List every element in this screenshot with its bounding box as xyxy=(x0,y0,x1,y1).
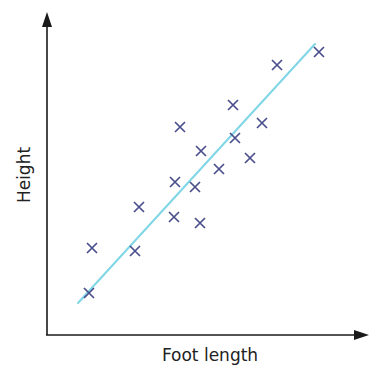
data-point-cross-icon xyxy=(134,202,144,212)
data-point-cross-icon xyxy=(169,212,179,222)
y-axis-label: Height xyxy=(14,147,34,203)
data-point-cross-icon xyxy=(170,177,180,187)
data-point-cross-icon xyxy=(214,164,224,174)
data-point-cross-icon xyxy=(228,100,238,110)
data-point-cross-icon xyxy=(272,60,282,70)
data-point-cross-icon xyxy=(130,246,140,256)
data-point-cross-icon xyxy=(175,122,185,132)
data-point-cross-icon xyxy=(245,153,255,163)
data-point-cross-icon xyxy=(314,47,324,57)
y-axis-arrow-icon xyxy=(42,12,52,27)
trend-line xyxy=(78,44,315,303)
data-point-cross-icon xyxy=(190,182,200,192)
data-point-cross-icon xyxy=(257,118,267,128)
x-axis-arrow-icon xyxy=(354,330,369,340)
data-points xyxy=(84,47,324,298)
x-axis-label: Foot length xyxy=(0,345,379,365)
scatter-chart xyxy=(0,0,379,384)
data-point-cross-icon xyxy=(87,243,97,253)
data-point-cross-icon xyxy=(230,133,240,143)
data-point-cross-icon xyxy=(195,218,205,228)
data-point-cross-icon xyxy=(196,146,206,156)
